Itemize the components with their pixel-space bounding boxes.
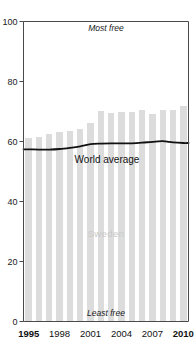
y-tick-label-0: 0 <box>12 317 17 327</box>
y-tick-label-60: 60 <box>7 137 17 147</box>
y-tick-label-80: 80 <box>7 77 17 87</box>
x-tick-label-2001: 2001 <box>80 328 101 339</box>
bar-1995 <box>25 138 31 321</box>
x-tick-label-2004: 2004 <box>111 328 132 339</box>
sweden-economic-freedom-chart: 020406080100 199519982001200420072010 Mo… <box>0 0 196 345</box>
bar-1997 <box>46 134 52 322</box>
bar-2007 <box>149 114 155 322</box>
x-tick-label-2010: 2010 <box>173 328 194 339</box>
bar-1996 <box>36 137 42 321</box>
world-average-annotation: World average <box>75 154 140 165</box>
x-tick-label-2007: 2007 <box>142 328 163 339</box>
sweden-annotation: Sweden <box>88 228 125 239</box>
y-tick-label-100: 100 <box>2 17 17 27</box>
chart-container: 020406080100 199519982001200420072010 Mo… <box>0 0 196 345</box>
bar-2010 <box>180 106 186 322</box>
bar-1998 <box>56 132 62 322</box>
y-tick-label-40: 40 <box>7 197 17 207</box>
y-tick-label-20: 20 <box>7 257 17 267</box>
bar-1999 <box>67 131 73 321</box>
most-free-annotation: Most free <box>88 23 124 33</box>
x-tick-label-1995: 1995 <box>18 328 40 339</box>
least-free-annotation: Least free <box>87 308 125 318</box>
bar-2001 <box>87 123 93 322</box>
x-tick-label-1998: 1998 <box>49 328 70 339</box>
